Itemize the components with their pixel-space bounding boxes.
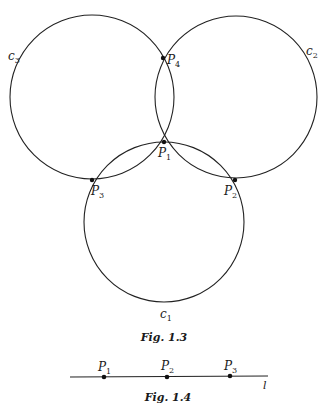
line-label-l: l bbox=[263, 379, 267, 392]
geometry-figures: c3 c2 c1 P4 P1 P3 P2 Fig. 1.3 P1 P2 P3 l… bbox=[0, 0, 323, 406]
line-label-p1: P1 bbox=[97, 360, 111, 376]
circle-c2 bbox=[155, 16, 317, 178]
label-c2: c2 bbox=[306, 44, 318, 60]
label-c1: c1 bbox=[160, 307, 172, 323]
point-p1 bbox=[162, 140, 166, 144]
circle-c1 bbox=[84, 142, 244, 302]
figure-1-4: P1 P2 P3 l Fig. 1.4 bbox=[70, 359, 268, 404]
label-p1: P1 bbox=[157, 146, 171, 162]
label-p4: P4 bbox=[166, 53, 180, 69]
caption-fig-1-4: Fig. 1.4 bbox=[144, 391, 191, 404]
point-p2 bbox=[233, 178, 237, 182]
line-label-p3: P3 bbox=[223, 359, 237, 375]
label-p3: P3 bbox=[90, 184, 104, 200]
caption-fig-1-3: Fig. 1.3 bbox=[140, 331, 188, 344]
label-c3: c3 bbox=[8, 49, 20, 65]
circle-c3 bbox=[10, 15, 174, 179]
line-point-p2 bbox=[165, 375, 170, 380]
line-label-p2: P2 bbox=[160, 359, 174, 375]
point-p4 bbox=[161, 56, 165, 60]
point-p3 bbox=[90, 178, 94, 182]
